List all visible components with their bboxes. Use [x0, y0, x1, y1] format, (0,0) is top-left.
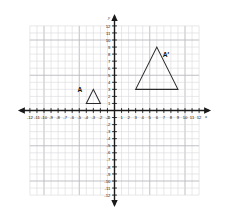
shape-label-A: A [78, 86, 83, 93]
x-tick-label: -9 [49, 115, 53, 120]
shape-label-A-prime: A′ [163, 51, 170, 58]
y-tick-label: 12 [106, 24, 111, 29]
y-tick-label: -6 [107, 150, 111, 155]
y-axis-label: y [107, 15, 111, 20]
y-tick-label: 11 [106, 31, 111, 36]
x-tick-label: -10 [41, 115, 48, 120]
y-tick-label: -2 [107, 122, 111, 127]
x-tick-label: -8 [56, 115, 60, 120]
y-tick-label: -5 [107, 143, 111, 148]
shape-labels: AA′ [78, 51, 170, 93]
x-tick-label: -4 [84, 115, 88, 120]
y-tick-label: -1 [107, 115, 111, 120]
y-tick-label: -3 [107, 129, 111, 134]
x-tick-label: -3 [91, 115, 95, 120]
y-tick-label: -4 [107, 136, 111, 141]
x-tick-label: 12 [197, 115, 202, 120]
x-tick-label: -7 [63, 115, 67, 120]
x-axis-label: x [204, 114, 207, 119]
axes [18, 14, 211, 207]
coordinate-plane-figure: -12-11-10-9-8-7-6-5-4-3-2-11234567891011… [0, 0, 229, 219]
x-tick-label: -6 [70, 115, 74, 120]
y-tick-label: -11 [105, 186, 111, 191]
y-tick-label: -12 [104, 193, 111, 198]
y-tick-label: -7 [107, 157, 111, 162]
y-tick-label: -10 [104, 179, 111, 184]
x-tick-label: -5 [77, 115, 81, 120]
x-tick-label: -12 [27, 115, 34, 120]
y-tick-label: -9 [107, 172, 111, 177]
y-tick-label: 10 [106, 38, 111, 43]
x-tick-label: -11 [34, 115, 40, 120]
coordinate-plane-svg: -12-11-10-9-8-7-6-5-4-3-2-11234567891011… [0, 0, 229, 219]
y-tick-label: -8 [107, 165, 111, 170]
x-tick-label: 10 [183, 115, 188, 120]
x-tick-label: 11 [190, 115, 195, 120]
x-tick-label: -2 [99, 115, 103, 120]
